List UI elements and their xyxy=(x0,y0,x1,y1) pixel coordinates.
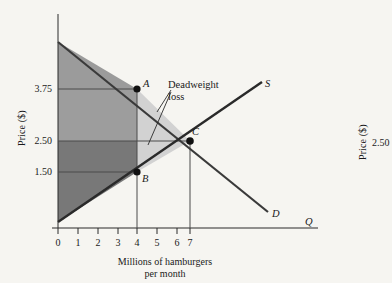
y-tick-label-375: 3.75 xyxy=(22,83,52,94)
y-tick-label-150: 1.50 xyxy=(22,166,52,177)
x-tick-label-7: 7 xyxy=(183,237,197,248)
point-label-b: B xyxy=(142,173,148,184)
demand-curve-label: D xyxy=(272,208,280,219)
q-axis-symbol: Q xyxy=(305,216,313,227)
point-c-marker xyxy=(186,137,194,145)
side-fragment-y-axis-title: Price ($) xyxy=(357,124,368,160)
x-axis-ticks xyxy=(58,228,190,234)
figure-canvas: Price ($) 3.75 2.50 1.50 0 1 2 3 4 5 6 7… xyxy=(0,0,392,283)
x-axis-title-line1: Millions of hamburgers xyxy=(80,256,250,267)
point-a-marker xyxy=(133,85,140,92)
x-tick-label-4: 4 xyxy=(130,237,144,248)
point-label-c: C xyxy=(192,126,199,137)
deadweight-loss-annotation-line2: loss xyxy=(168,91,184,102)
x-axis-title-line2: per month xyxy=(80,268,250,279)
side-fragment-tick-250: 2.50 xyxy=(372,137,390,148)
x-tick-label-0: 0 xyxy=(51,237,65,248)
supply-curve-label: S xyxy=(265,78,270,89)
point-label-a: A xyxy=(143,78,149,89)
region-producer-surplus xyxy=(58,141,137,222)
deadweight-loss-annotation-line1: Deadweight xyxy=(168,79,219,90)
x-tick-label-5: 5 xyxy=(150,237,164,248)
region-consumer-surplus xyxy=(58,42,137,89)
y-tick-label-250: 2.50 xyxy=(22,135,52,146)
x-tick-label-6: 6 xyxy=(170,237,184,248)
x-tick-label-2: 2 xyxy=(91,237,105,248)
x-tick-label-1: 1 xyxy=(71,237,85,248)
x-tick-label-3: 3 xyxy=(111,237,125,248)
point-b-marker xyxy=(133,168,140,175)
